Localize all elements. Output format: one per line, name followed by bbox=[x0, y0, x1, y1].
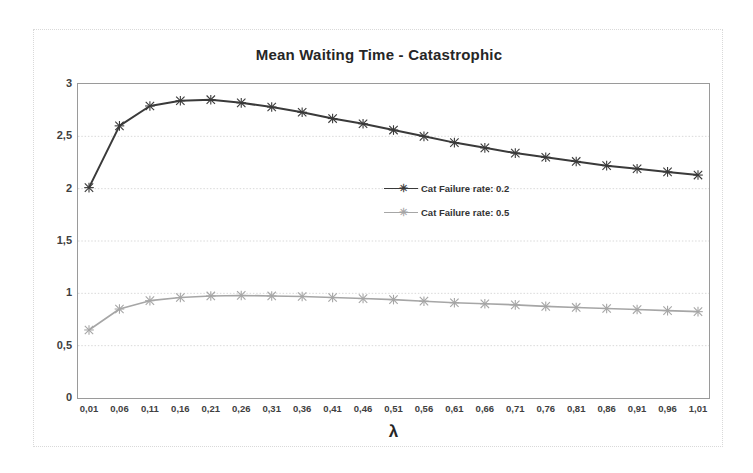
data-point-marker bbox=[663, 167, 673, 177]
x-axis-tick-label: 0,66 bbox=[476, 403, 495, 414]
x-axis-tick-label: 0,76 bbox=[537, 403, 556, 414]
data-point-marker bbox=[176, 96, 186, 106]
data-point-marker bbox=[358, 119, 368, 129]
data-point-marker bbox=[632, 305, 642, 315]
legend-item-label: Cat Failure rate: 0.2 bbox=[421, 183, 509, 194]
plot-area bbox=[77, 83, 710, 399]
data-point-marker bbox=[450, 138, 460, 148]
data-point-marker bbox=[632, 164, 642, 174]
data-point-marker bbox=[145, 296, 155, 306]
chart-legend: ✳Cat Failure rate: 0.2✳Cat Failure rate:… bbox=[384, 176, 614, 224]
data-point-marker bbox=[115, 121, 125, 131]
x-axis-tick-label: 0,71 bbox=[506, 403, 525, 414]
x-axis-tick-label: 1,01 bbox=[689, 403, 708, 414]
x-axis-tick-label: 0,41 bbox=[323, 403, 342, 414]
x-axis-tick-label: 0,86 bbox=[597, 403, 616, 414]
y-axis-tick-label: 1 bbox=[38, 286, 72, 298]
data-point-marker bbox=[358, 294, 368, 304]
data-point-marker bbox=[389, 295, 399, 305]
data-point-marker bbox=[693, 170, 703, 180]
y-axis-tick-label: 0 bbox=[38, 391, 72, 403]
x-axis-title: λ bbox=[77, 422, 710, 442]
data-point-marker bbox=[145, 101, 155, 111]
x-axis-tick-label: 0,46 bbox=[354, 403, 373, 414]
x-axis-tick-label: 0,21 bbox=[202, 403, 221, 414]
x-axis-tick-label: 0,11 bbox=[141, 403, 159, 414]
data-point-marker bbox=[571, 303, 581, 313]
x-axis-tick-label: 0,56 bbox=[415, 403, 434, 414]
data-point-marker bbox=[541, 152, 551, 162]
chart-container: Mean Waiting Time - Catastrophic 00,511,… bbox=[0, 0, 753, 473]
y-axis-tick-label: 3 bbox=[38, 77, 72, 89]
chart-frame: Mean Waiting Time - Catastrophic 00,511,… bbox=[33, 29, 723, 447]
data-point-marker bbox=[450, 298, 460, 308]
y-axis-tick-labels: 00,511,522,53 bbox=[34, 83, 72, 399]
data-point-marker bbox=[480, 299, 490, 309]
data-point-marker bbox=[328, 114, 338, 124]
data-point-marker bbox=[511, 148, 521, 158]
x-axis-tick-label: 0,61 bbox=[445, 403, 464, 414]
data-point-marker bbox=[663, 306, 673, 316]
x-axis-tick-labels: 0,010,060,110,160,210,260,310,360,410,46… bbox=[77, 403, 710, 423]
x-axis-tick-label: 0,81 bbox=[567, 403, 586, 414]
x-axis-tick-label: 0,36 bbox=[293, 403, 312, 414]
data-point-marker bbox=[236, 291, 246, 301]
data-point-marker bbox=[267, 102, 277, 112]
x-axis-tick-label: 0,16 bbox=[171, 403, 190, 414]
x-axis-tick-label: 0,31 bbox=[262, 403, 281, 414]
data-point-marker bbox=[297, 292, 307, 302]
x-axis-tick-label: 0,26 bbox=[232, 403, 251, 414]
data-point-marker bbox=[541, 302, 551, 312]
legend-item[interactable]: ✳Cat Failure rate: 0.2 bbox=[384, 176, 614, 200]
data-point-marker bbox=[480, 143, 490, 153]
y-axis-tick-label: 1,5 bbox=[38, 234, 72, 246]
plot-svg bbox=[78, 84, 709, 398]
data-point-marker bbox=[84, 325, 94, 335]
y-axis-tick-label: 2 bbox=[38, 182, 72, 194]
data-point-marker bbox=[206, 291, 216, 301]
data-point-marker bbox=[84, 183, 94, 193]
data-point-marker bbox=[297, 107, 307, 117]
legend-item-label: Cat Failure rate: 0.5 bbox=[421, 207, 509, 218]
x-axis-tick-label: 0,06 bbox=[110, 403, 129, 414]
data-point-marker bbox=[328, 293, 338, 303]
series-line bbox=[89, 100, 698, 188]
data-point-marker bbox=[389, 125, 399, 135]
data-point-marker bbox=[419, 296, 429, 306]
data-point-marker bbox=[693, 307, 703, 317]
x-axis-tick-label: 0,01 bbox=[80, 403, 99, 414]
x-axis-tick-label: 0,51 bbox=[384, 403, 403, 414]
data-point-marker bbox=[602, 161, 612, 171]
x-axis-tick-label: 0,91 bbox=[628, 403, 647, 414]
data-point-marker bbox=[115, 304, 125, 314]
data-point-marker bbox=[206, 95, 216, 105]
data-point-marker bbox=[267, 291, 277, 301]
chart-title: Mean Waiting Time - Catastrophic bbox=[34, 46, 724, 63]
data-point-marker bbox=[602, 304, 612, 314]
data-point-marker bbox=[571, 157, 581, 167]
legend-marker-icon: ✳ bbox=[384, 207, 418, 217]
legend-marker-icon: ✳ bbox=[384, 183, 418, 193]
data-point-marker bbox=[236, 98, 246, 108]
y-axis-tick-label: 0,5 bbox=[38, 339, 72, 351]
data-point-marker bbox=[176, 293, 186, 303]
legend-item[interactable]: ✳Cat Failure rate: 0.5 bbox=[384, 200, 614, 224]
y-axis-tick-label: 2,5 bbox=[38, 129, 72, 141]
x-axis-tick-label: 0,96 bbox=[658, 403, 677, 414]
data-point-marker bbox=[511, 300, 521, 310]
data-point-marker bbox=[419, 132, 429, 142]
